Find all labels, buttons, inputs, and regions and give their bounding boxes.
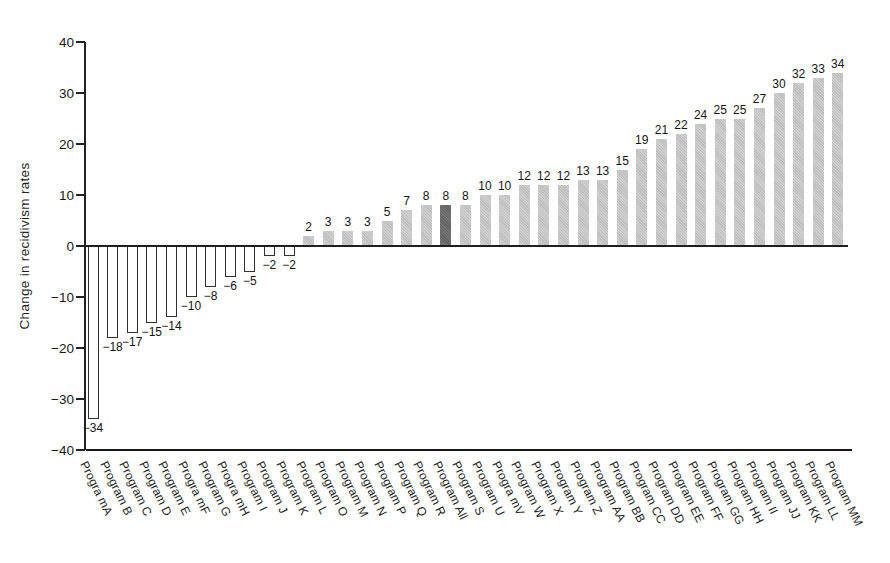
bar-program-j [264, 246, 275, 256]
bar-program-p [382, 221, 393, 247]
bar-value-label: 32 [792, 67, 805, 81]
bar-value-label: 13 [576, 164, 589, 178]
y-tick-mark [76, 194, 85, 196]
bar-value-label: 5 [384, 205, 391, 219]
y-tick-mark [76, 449, 85, 451]
bar-program-jj [774, 93, 785, 246]
bar-program-kk [793, 83, 804, 246]
y-tick-label: −30 [34, 392, 74, 407]
bar-value-label: 3 [325, 215, 332, 229]
bar-program-aa [597, 180, 608, 246]
bar-program-c [127, 246, 138, 333]
bar-value-label: 22 [674, 118, 687, 132]
bar-progra-mh [225, 246, 236, 277]
y-tick-label: 40 [34, 35, 74, 50]
y-tick-mark [76, 245, 85, 247]
y-tick-label: 0 [34, 239, 74, 254]
bar-program-gg [715, 119, 726, 247]
bar-program-u [480, 195, 491, 246]
bar-value-label: −2 [263, 258, 277, 272]
bar-program-n [362, 231, 373, 246]
bar-value-label: 3 [364, 215, 371, 229]
bar-value-label: −34 [83, 421, 103, 435]
bar-program-b [107, 246, 118, 338]
bar-program-all [440, 205, 451, 246]
bar-value-label: 30 [772, 77, 785, 91]
bar-value-label: 25 [714, 103, 727, 117]
bar-program-x [538, 185, 549, 246]
bar-value-label: 25 [733, 103, 746, 117]
bar-value-label: 8 [442, 189, 449, 203]
y-tick-mark [76, 143, 85, 145]
y-tick-mark [76, 398, 85, 400]
bar-value-label: −10 [181, 299, 201, 313]
bar-program-r [421, 205, 432, 246]
bar-program-y [558, 185, 569, 246]
y-tick-mark [76, 296, 85, 298]
bar-value-label: −14 [161, 319, 181, 333]
bar-program-bb [617, 170, 628, 247]
bar-program-e [166, 246, 177, 317]
bar-program-m [342, 231, 353, 246]
bar-value-label: 34 [831, 57, 844, 71]
bar-value-label: 7 [403, 194, 410, 208]
y-tick-label: 20 [34, 137, 74, 152]
bar-program-z [578, 180, 589, 246]
bar-value-label: 15 [616, 154, 629, 168]
bar-program-ee [676, 134, 687, 246]
bar-value-label: −6 [223, 279, 237, 293]
y-tick-mark [76, 92, 85, 94]
bar-value-label: −2 [282, 258, 296, 272]
bar-program-dd [656, 139, 667, 246]
bar-value-label: −8 [204, 289, 218, 303]
bar-progra-mv [499, 195, 510, 246]
plot-area: 403020100−10−20−30−40−34Progra mA−18Prog… [0, 0, 890, 563]
bar-program-q [401, 210, 412, 246]
zero-line [86, 245, 848, 247]
bar-value-label: 2 [305, 220, 312, 234]
bar-value-label: 10 [478, 179, 491, 193]
bar-program-s [460, 205, 471, 246]
bar-value-label: 21 [655, 123, 668, 137]
bar-program-i [244, 246, 255, 272]
y-tick-label: −40 [34, 443, 74, 458]
bar-value-label: −15 [142, 325, 162, 339]
bar-value-label: −5 [243, 274, 257, 288]
bar-value-label: 12 [518, 169, 531, 183]
bar-program-hh [734, 119, 745, 247]
bar-program-g [205, 246, 216, 287]
y-tick-mark [76, 347, 85, 349]
bar-value-label: 12 [537, 169, 550, 183]
y-tick-label: −20 [34, 341, 74, 356]
bar-progra-mf [186, 246, 197, 297]
bar-value-label: 8 [462, 189, 469, 203]
bar-value-label: 19 [635, 133, 648, 147]
bar-value-label: −17 [122, 335, 142, 349]
y-tick-label: 10 [34, 188, 74, 203]
bar-program-ii [754, 108, 765, 246]
bar-value-label: −18 [102, 340, 122, 354]
y-tick-label: 30 [34, 86, 74, 101]
bar-program-w [519, 185, 530, 246]
bar-program-d [146, 246, 157, 323]
bar-program-o [323, 231, 334, 246]
bar-program-k [284, 246, 295, 256]
bar-program-ff [695, 124, 706, 246]
bar-program-mm [832, 73, 843, 246]
bar-value-label: 33 [812, 62, 825, 76]
bar-value-label: 24 [694, 108, 707, 122]
bar-progra-ma [88, 246, 99, 419]
bar-value-label: 10 [498, 179, 511, 193]
bar-value-label: 8 [423, 189, 430, 203]
bar-value-label: 3 [344, 215, 351, 229]
bar-program-cc [636, 149, 647, 246]
bar-value-label: 12 [557, 169, 570, 183]
bar-value-label: 27 [753, 92, 766, 106]
recidivism-bar-chart: Change in recidivism rates 403020100−10−… [0, 0, 890, 563]
x-axis-line [86, 449, 852, 452]
bar-program-ll [813, 78, 824, 246]
y-tick-label: −10 [34, 290, 74, 305]
bar-value-label: 13 [596, 164, 609, 178]
y-tick-mark [76, 41, 85, 43]
